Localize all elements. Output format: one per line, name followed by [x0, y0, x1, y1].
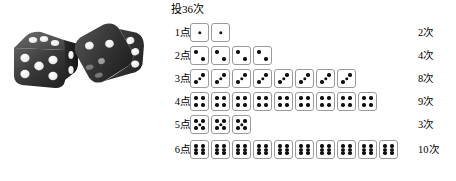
die-face-3	[316, 69, 335, 88]
die-pip	[362, 96, 365, 99]
die-face-1	[211, 23, 230, 42]
die-pip	[261, 77, 264, 80]
die-pip	[341, 80, 344, 83]
die-pip	[278, 151, 281, 154]
die-pip	[215, 126, 218, 129]
left-die	[14, 32, 78, 88]
die-pip	[327, 96, 330, 99]
die-pip	[215, 80, 218, 83]
die-pip	[243, 57, 246, 60]
die-pip	[236, 151, 239, 154]
die-pip	[219, 31, 222, 34]
die-pip	[383, 151, 386, 154]
die-pip	[264, 151, 267, 154]
row-label-1: 1点	[164, 27, 190, 39]
die-pip	[341, 151, 344, 154]
die-pip	[215, 50, 218, 53]
die-pip	[222, 103, 225, 106]
die-pip	[320, 96, 323, 99]
die-pip	[327, 151, 330, 154]
die-pip	[194, 151, 197, 154]
dice-strip-1	[190, 22, 230, 43]
die-pip	[324, 77, 327, 80]
die-pip	[257, 151, 260, 154]
die-face-6	[379, 140, 398, 159]
die-pip	[194, 126, 197, 129]
die-pip	[236, 126, 239, 129]
die-pip	[201, 103, 204, 106]
die-pip	[341, 96, 344, 99]
die-pip	[198, 31, 201, 34]
tally-row: 1点 2次	[160, 22, 456, 43]
die-face-6	[190, 140, 209, 159]
die-face-3	[337, 69, 356, 88]
die-pip	[278, 80, 281, 83]
row-label-2: 2点	[164, 50, 190, 62]
die-pip	[222, 119, 225, 122]
die-pip	[285, 103, 288, 106]
die-pip	[369, 103, 372, 106]
die-face-4	[358, 92, 377, 111]
die-pip	[327, 103, 330, 106]
row-count-4: 9次	[418, 96, 433, 108]
die-pip	[243, 103, 246, 106]
die-pip	[362, 103, 365, 106]
row-label-4: 4点	[164, 96, 190, 108]
die-pip	[222, 126, 225, 129]
die-pip	[222, 96, 225, 99]
die-pip	[257, 103, 260, 106]
die-face-2	[211, 46, 230, 65]
die-pip	[243, 126, 246, 129]
die-pip	[215, 96, 218, 99]
die-pip	[306, 96, 309, 99]
chart-title: 投36次	[171, 3, 204, 16]
die-face-4	[295, 92, 314, 111]
die-face-3	[274, 69, 293, 88]
die-pip	[285, 151, 288, 154]
die-pip	[285, 96, 288, 99]
die-face-6	[337, 140, 356, 159]
dice-strip-2	[190, 45, 272, 66]
die-face-4	[274, 92, 293, 111]
die-pip	[369, 96, 372, 99]
die-face-5	[211, 115, 230, 134]
row-label-3: 3点	[164, 73, 190, 85]
die-pip	[264, 96, 267, 99]
row-label-6: 6点	[164, 144, 190, 156]
die-pip	[306, 103, 309, 106]
die-pip	[194, 96, 197, 99]
die-face-3	[295, 69, 314, 88]
die-pip	[299, 80, 302, 83]
die-pip	[243, 151, 246, 154]
die-pip	[222, 73, 225, 76]
die-pip	[236, 80, 239, 83]
row-count-5: 3次	[418, 119, 433, 131]
die-face-6	[274, 140, 293, 159]
die-pip	[240, 77, 243, 80]
tally-row: 3点 8次	[160, 68, 456, 89]
die-pip	[299, 103, 302, 106]
row-count-6: 10次	[418, 144, 439, 156]
die-pip	[243, 119, 246, 122]
tally-row: 6点 10次	[160, 139, 456, 160]
dice-strip-4	[190, 91, 377, 112]
die-pip	[201, 126, 204, 129]
die-pip	[194, 80, 197, 83]
die-pip	[243, 96, 246, 99]
die-face-4	[232, 92, 251, 111]
die-pip	[236, 50, 239, 53]
die-pip	[299, 96, 302, 99]
die-pip	[257, 96, 260, 99]
die-face-6	[232, 140, 251, 159]
dice-photograph	[0, 0, 152, 97]
die-face-2	[190, 46, 209, 65]
die-pip	[348, 73, 351, 76]
die-pip	[201, 73, 204, 76]
die-pip	[243, 73, 246, 76]
die-pip	[348, 151, 351, 154]
die-pip	[278, 96, 281, 99]
die-pip	[345, 77, 348, 80]
die-face-3	[253, 69, 272, 88]
die-face-6	[211, 140, 230, 159]
dice-strip-5	[190, 114, 251, 135]
